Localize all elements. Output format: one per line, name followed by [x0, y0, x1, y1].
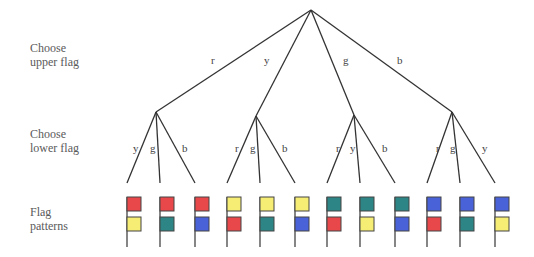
lower-flag	[227, 217, 241, 231]
upper-flag	[360, 197, 374, 211]
lower-edge-label: r	[436, 142, 440, 154]
upper-edge-label: y	[264, 54, 270, 66]
lower-edge-y-g	[256, 116, 260, 183]
upper-flag	[260, 197, 274, 211]
upper-edge-label: b	[397, 54, 403, 66]
lower-flag	[260, 217, 274, 231]
lower-edge-r-b	[156, 112, 195, 183]
upper-edge-r	[156, 10, 311, 112]
lower-flag	[360, 217, 374, 231]
lower-flag	[195, 217, 209, 231]
upper-flag	[227, 197, 241, 211]
flag-pattern-y-g	[260, 197, 274, 247]
flag-pattern-g-y	[360, 197, 374, 247]
lower-edge-g-b	[354, 115, 395, 183]
lower-edge-r-g	[156, 112, 160, 183]
flag-pattern-y-r	[227, 197, 241, 247]
flag-pattern-r-y	[127, 197, 141, 247]
upper-edge-label: g	[343, 54, 349, 66]
upper-flag	[327, 197, 341, 211]
lower-flag	[295, 217, 309, 231]
lower-edge-y-b	[256, 116, 295, 183]
upper-flag	[127, 197, 141, 211]
lower-edge-label: g	[450, 142, 456, 154]
upper-flag	[395, 197, 409, 211]
upper-flag	[295, 197, 309, 211]
upper-flag	[195, 197, 209, 211]
flag-pattern-b-g	[460, 197, 474, 247]
upper-flag	[160, 197, 174, 211]
lower-edge-label: y	[133, 142, 139, 154]
flag-pattern-b-r	[427, 197, 441, 247]
flag-pattern-b-y	[495, 197, 509, 247]
flag-pattern-g-r	[327, 197, 341, 247]
lower-flag	[427, 217, 441, 231]
tree-edges	[127, 10, 495, 183]
upper-flag	[495, 197, 509, 211]
lower-flag	[160, 217, 174, 231]
lower-flag	[460, 217, 474, 231]
lower-edge-label: b	[182, 142, 188, 154]
flag-pattern-r-b	[195, 197, 209, 247]
flag-pattern-y-b	[295, 197, 309, 247]
lower-edge-label: r	[336, 142, 340, 154]
flag-pattern-g-b	[395, 197, 409, 247]
lower-edge-label: r	[235, 142, 239, 154]
lower-edge-label: g	[250, 142, 256, 154]
lower-flag	[395, 217, 409, 231]
lower-flag	[327, 217, 341, 231]
upper-edge-label: r	[211, 54, 215, 66]
lower-edge-label: b	[282, 142, 288, 154]
lower-flag	[127, 217, 141, 231]
flag-patterns	[127, 197, 509, 247]
upper-flag	[460, 197, 474, 211]
edge-labels: rygbygbrgbrybrgy	[133, 54, 488, 154]
tree-diagram: rygbygbrgbrybrgy	[0, 0, 534, 257]
lower-edge-label: g	[150, 142, 156, 154]
upper-flag	[427, 197, 441, 211]
lower-edge-label: b	[382, 142, 388, 154]
lower-flag	[495, 217, 509, 231]
lower-edge-label: y	[350, 142, 356, 154]
flag-pattern-r-g	[160, 197, 174, 247]
lower-edge-label: y	[482, 142, 488, 154]
